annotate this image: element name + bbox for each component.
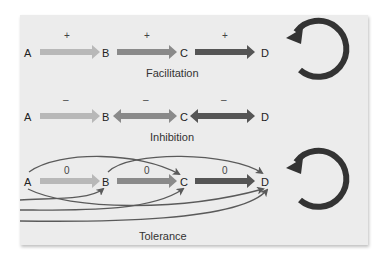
node-a: A xyxy=(24,47,32,59)
caption-facilitation: Facilitation xyxy=(146,67,199,79)
arrow-c-d xyxy=(195,174,255,188)
node-a: A xyxy=(24,176,32,188)
circular-arrow-icon xyxy=(286,151,346,207)
facilitation-row: A B C D + + + Facilitation xyxy=(24,21,346,79)
arrow-a-b xyxy=(40,45,100,59)
effect-sign: 0 xyxy=(144,165,150,176)
arrow-b-c-bidirectional xyxy=(113,109,177,123)
succession-diagram: A B C D + + + Facilitation A B C D – – –… xyxy=(0,0,382,254)
arrow-c-d-bidirectional xyxy=(190,109,255,123)
effect-sign: + xyxy=(64,30,70,41)
arrow-a-b xyxy=(40,109,100,123)
inhibition-row: A B C D – – – Inhibition xyxy=(24,94,269,143)
tolerance-row: A B C D 0 0 0 Tolerance xyxy=(20,151,346,242)
arrow-a-b xyxy=(40,174,100,188)
arrow-b-c xyxy=(117,45,177,59)
node-b: B xyxy=(102,111,109,123)
arrow-c-d xyxy=(195,45,255,59)
effect-sign: 0 xyxy=(222,165,228,176)
node-c: C xyxy=(180,111,188,123)
effect-sign: – xyxy=(143,94,149,105)
node-c: C xyxy=(180,47,188,59)
node-b: B xyxy=(102,47,109,59)
node-b: B xyxy=(102,176,109,188)
node-c: C xyxy=(180,176,188,188)
node-d: D xyxy=(261,176,269,188)
caption-inhibition: Inhibition xyxy=(150,131,194,143)
curve-a-to-c xyxy=(29,156,179,174)
effect-sign: – xyxy=(63,94,69,105)
circular-arrow-icon xyxy=(286,21,346,77)
arrow-b-c xyxy=(117,174,177,188)
effect-sign: + xyxy=(144,30,150,41)
node-d: D xyxy=(261,111,269,123)
effect-sign: – xyxy=(221,94,227,105)
node-d: D xyxy=(261,47,269,59)
effect-sign: 0 xyxy=(64,165,70,176)
caption-tolerance: Tolerance xyxy=(139,230,187,242)
effect-sign: + xyxy=(222,30,228,41)
node-a: A xyxy=(24,111,32,123)
